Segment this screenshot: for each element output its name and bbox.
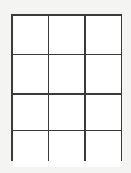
- figure-canvas: [0, 0, 131, 173]
- grid-cell-r4c3[interactable]: [86, 131, 121, 167]
- grid-cell-r2c1[interactable]: [13, 55, 48, 93]
- grid-cell-r3c2[interactable]: [49, 95, 84, 130]
- grid-cell-r4c2[interactable]: [49, 131, 84, 167]
- grid-cell-r3c3[interactable]: [86, 95, 121, 130]
- grid-cell-r1c1[interactable]: [13, 16, 48, 54]
- grid-cell-r2c2[interactable]: [49, 55, 84, 93]
- grid-cell-r2c3[interactable]: [86, 55, 121, 93]
- grid-cell-r1c3[interactable]: [86, 16, 121, 54]
- grid-cell-r1c2[interactable]: [49, 16, 84, 54]
- grid-table: [11, 14, 122, 161]
- grid-cell-r4c1[interactable]: [13, 131, 48, 167]
- grid-cell-r3c1[interactable]: [13, 95, 48, 130]
